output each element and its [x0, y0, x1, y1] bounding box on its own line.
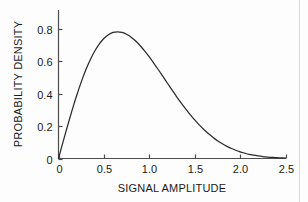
x-tick-label: 1.0: [142, 163, 157, 175]
y-tick-label: 0: [46, 154, 52, 166]
chart-figure: 00.51.01.52.02.5 00.20.40.60.8 SIGNAL AM…: [0, 0, 308, 202]
x-tick-label: 2.0: [233, 163, 248, 175]
x-tick-label: 1.5: [188, 163, 203, 175]
y-tick-label: 0.4: [37, 89, 52, 101]
x-tick-label: 2.5: [279, 163, 294, 175]
x-axis-title: SIGNAL AMPLITUDE: [118, 182, 227, 194]
x-tick-label: 0.5: [97, 163, 112, 175]
y-tick-label: 0.8: [37, 24, 52, 36]
y-tick-label: 0.2: [37, 121, 52, 133]
x-tick-label: 0: [56, 163, 62, 175]
rayleigh-distribution-chart: 00.51.01.52.02.5 00.20.40.60.8 SIGNAL AM…: [0, 0, 308, 202]
y-axis-title: PROBABILITY DENSITY: [12, 20, 24, 147]
y-tick-label: 0.6: [37, 56, 52, 68]
